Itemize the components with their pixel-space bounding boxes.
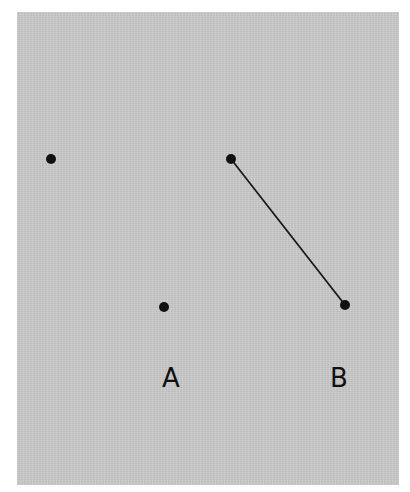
segment-b-start-point: [226, 154, 236, 164]
label-a: A: [162, 365, 180, 391]
point-left: [46, 154, 56, 164]
label-b: B: [330, 365, 348, 391]
point-a: [159, 302, 169, 312]
figure-drawing: [0, 0, 410, 492]
segment-b-end-point: [340, 300, 350, 310]
segment-b: [231, 159, 345, 305]
